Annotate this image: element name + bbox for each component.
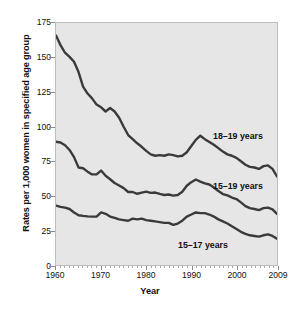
- x-minor-tick: [187, 266, 188, 268]
- x-minor-tick: [151, 266, 152, 268]
- x-minor-tick: [78, 266, 79, 268]
- x-minor-tick: [119, 266, 120, 268]
- x-minor-tick: [255, 266, 256, 268]
- y-tick-label: 50: [25, 191, 51, 201]
- x-minor-tick: [223, 266, 224, 268]
- x-minor-tick: [219, 266, 220, 268]
- x-minor-tick: [155, 266, 156, 268]
- x-minor-tick: [137, 266, 138, 268]
- x-minor-tick: [269, 266, 270, 268]
- x-minor-tick: [82, 266, 83, 268]
- x-minor-tick: [64, 266, 65, 268]
- series-label: 15–19 years: [213, 181, 263, 191]
- x-minor-tick: [196, 266, 197, 268]
- x-minor-tick: [60, 266, 61, 268]
- x-minor-tick: [96, 266, 97, 268]
- x-minor-tick: [264, 266, 265, 268]
- x-minor-tick: [182, 266, 183, 268]
- x-minor-tick: [123, 266, 124, 268]
- y-tick-label: 150: [25, 52, 51, 62]
- x-minor-tick: [232, 266, 233, 268]
- series-line: [56, 35, 277, 176]
- x-minor-tick: [128, 266, 129, 268]
- y-axis-title: Rates per 1,000 women in specified age g…: [21, 15, 31, 251]
- y-tick-label: 175: [25, 17, 51, 27]
- x-tick-mark: [237, 266, 238, 270]
- x-minor-tick: [69, 266, 70, 268]
- x-tick-label: 1990: [182, 270, 201, 280]
- series-label: 15–17 years: [178, 240, 228, 250]
- x-minor-tick: [105, 266, 106, 268]
- x-minor-tick: [205, 266, 206, 268]
- series-label: 18–19 years: [213, 131, 263, 141]
- x-minor-tick: [73, 266, 74, 268]
- x-minor-tick: [251, 266, 252, 268]
- y-tick-label: 75: [25, 156, 51, 166]
- series-line: [56, 142, 277, 214]
- x-minor-tick: [110, 266, 111, 268]
- x-minor-tick: [273, 266, 274, 268]
- x-axis-title: Year: [0, 286, 300, 296]
- x-minor-tick: [228, 266, 229, 268]
- x-minor-tick: [169, 266, 170, 268]
- x-tick-label: 2000: [227, 270, 246, 280]
- x-tick-mark: [55, 266, 56, 270]
- x-minor-tick: [178, 266, 179, 268]
- x-minor-tick: [260, 266, 261, 268]
- x-tick-label: 1980: [136, 270, 155, 280]
- x-minor-tick: [242, 266, 243, 268]
- x-minor-tick: [210, 266, 211, 268]
- chart-figure: Rates per 1,000 women in specified age g…: [0, 0, 300, 312]
- x-tick-label: 1960: [45, 270, 64, 280]
- x-minor-tick: [91, 266, 92, 268]
- x-minor-tick: [114, 266, 115, 268]
- x-minor-tick: [201, 266, 202, 268]
- y-tick-label: 25: [25, 226, 51, 236]
- x-minor-tick: [132, 266, 133, 268]
- x-minor-tick: [246, 266, 247, 268]
- plot-area: [55, 22, 278, 266]
- x-minor-tick: [141, 266, 142, 268]
- y-tick-label: 125: [25, 87, 51, 97]
- series-lines: [56, 23, 277, 265]
- x-minor-tick: [164, 266, 165, 268]
- x-minor-tick: [173, 266, 174, 268]
- x-tick-mark: [278, 266, 279, 270]
- series-line: [56, 206, 277, 239]
- x-tick-mark: [192, 266, 193, 270]
- x-tick-mark: [146, 266, 147, 270]
- y-tick-label: 100: [25, 122, 51, 132]
- x-tick-mark: [101, 266, 102, 270]
- x-minor-tick: [214, 266, 215, 268]
- x-tick-label: 1970: [91, 270, 110, 280]
- x-minor-tick: [160, 266, 161, 268]
- x-tick-label: 2009: [268, 270, 287, 280]
- x-minor-tick: [87, 266, 88, 268]
